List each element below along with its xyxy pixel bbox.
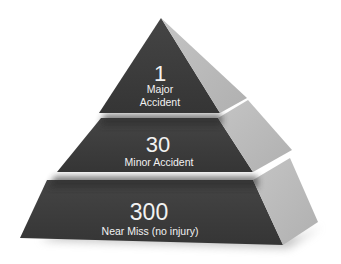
tier-middle-count: 30 bbox=[146, 134, 170, 156]
safety-pyramid-diagram: 1 Major Accident 30 Minor Accident 300 N… bbox=[0, 0, 341, 264]
tier-top-label-line1: Major bbox=[147, 84, 173, 95]
tier-top-count: 1 bbox=[154, 63, 166, 85]
tier-bottom-count: 300 bbox=[130, 201, 168, 224]
tier-bottom-label: Near Miss (no injury) bbox=[102, 226, 199, 237]
tier-middle-label: Minor Accident bbox=[125, 157, 194, 168]
tier-top-label-line2: Accident bbox=[140, 97, 180, 108]
